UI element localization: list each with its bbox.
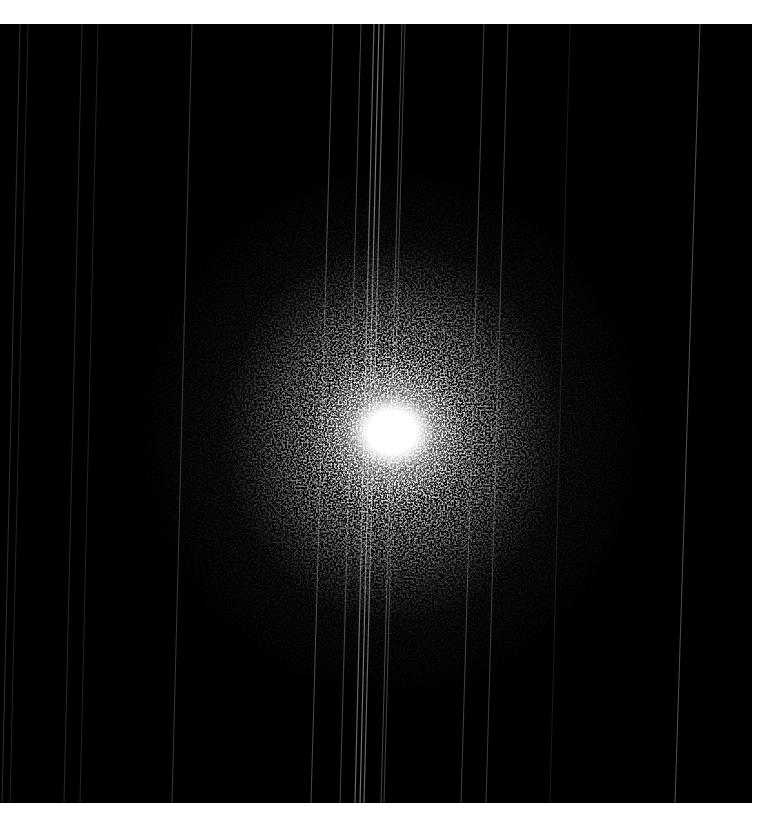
bright-core	[348, 394, 435, 470]
streak-line	[2, 24, 20, 803]
streak-line	[675, 24, 700, 803]
image-panel	[0, 24, 752, 803]
streak-line	[80, 24, 98, 803]
diffraction-spot-image	[0, 24, 752, 803]
streak-line	[10, 24, 28, 803]
streak-line	[64, 24, 82, 803]
central-spot	[132, 159, 652, 705]
